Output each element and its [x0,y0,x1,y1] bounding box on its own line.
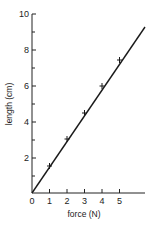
svg-text:8: 8 [24,45,29,55]
svg-text:10: 10 [19,9,29,19]
x-ticks [50,189,120,193]
data-point-marker [82,110,87,116]
svg-text:0: 0 [29,196,34,206]
x-axis-label: force (N) [67,209,100,219]
x-tick-labels: 0 1 2 3 4 5 [29,196,122,206]
svg-text:4: 4 [99,196,104,206]
svg-text:5: 5 [117,196,122,206]
y-ticks [32,14,36,176]
chart: 10 8 6 4 2 0 1 2 3 4 5 force (N) length … [0,0,154,228]
svg-text:6: 6 [24,81,29,91]
data-point-marker [65,136,70,142]
y-tick-labels: 10 8 6 4 2 [19,9,29,163]
svg-text:4: 4 [24,117,29,127]
y-axis-label: length (cm) [4,83,14,126]
svg-text:3: 3 [82,196,87,206]
data-points [47,57,122,169]
best-fit-line [32,27,145,193]
svg-text:1: 1 [47,196,52,206]
svg-text:2: 2 [64,196,69,206]
svg-text:2: 2 [24,153,29,163]
